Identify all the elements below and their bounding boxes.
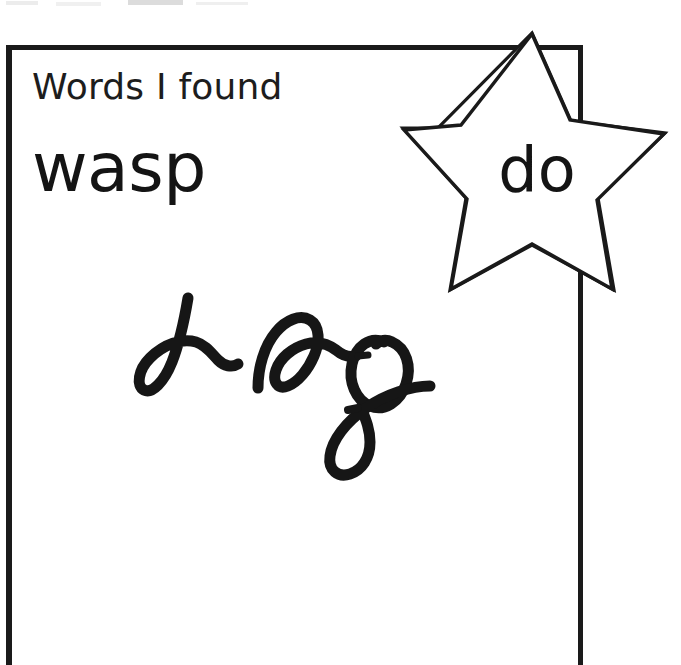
scan-smudge	[128, 0, 183, 5]
page-title: Words I found	[32, 66, 283, 107]
scan-smudge	[56, 2, 101, 6]
scan-smudge	[6, 1, 38, 5]
found-word-wasp: wasp	[32, 128, 206, 207]
handwritten-word	[130, 270, 500, 500]
star-word: do	[489, 133, 585, 206]
scan-smudge	[196, 2, 248, 5]
